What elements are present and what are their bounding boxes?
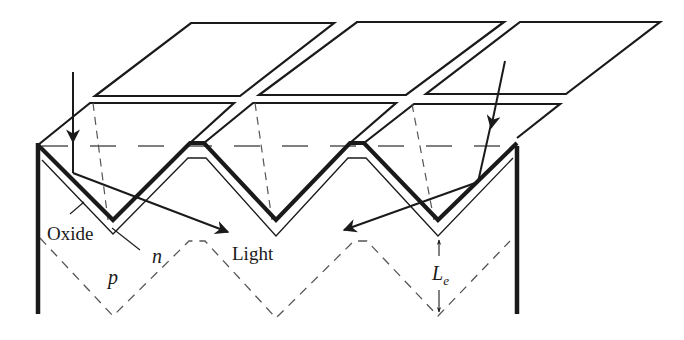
glass-plate-back-2 <box>259 22 504 95</box>
diffusion-length-sub: e <box>443 273 449 288</box>
oxide-layer-thin-zigzag <box>42 158 513 236</box>
solar-cell-texture-diagram: Oxide n p Light Le <box>0 0 684 340</box>
textured-surface-thick-zigzag <box>38 143 517 220</box>
oxide-label: Oxide <box>47 223 93 244</box>
n-region-label: n <box>152 245 162 267</box>
diffusion-length-main: L <box>431 262 443 284</box>
light-label: Light <box>232 243 274 264</box>
n-region-leader-line <box>112 228 140 250</box>
diffusion-length-label: Le <box>431 262 449 288</box>
glass-plate-front-3 <box>364 104 560 143</box>
glass-plate-back-3 <box>426 22 660 94</box>
glass-plate-back-1 <box>95 23 334 96</box>
top-glass-plates-row-2 <box>38 103 560 145</box>
glass-plate-front-2 <box>204 103 396 143</box>
p-region-label: p <box>106 266 118 289</box>
top-glass-plates-row-1 <box>95 22 660 96</box>
glass-plate-front-1 <box>38 103 234 145</box>
oxide-leader-line <box>70 202 84 214</box>
